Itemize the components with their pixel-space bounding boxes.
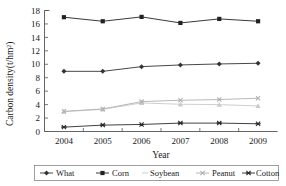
series-line	[64, 103, 258, 112]
series-what	[61, 61, 260, 74]
series-soybean	[61, 100, 260, 113]
data-point	[178, 21, 182, 25]
data-point	[217, 121, 222, 125]
x-tick-label: 2005	[94, 136, 113, 146]
y-tick-label: 0	[36, 127, 41, 137]
legend-label: Soybean	[150, 168, 180, 178]
y-axis-title: Carbon density(t/hm²)	[5, 42, 16, 126]
x-axis-title: Year	[152, 150, 170, 160]
y-tick-label: 8	[36, 73, 41, 83]
y-tick-label: 10	[31, 59, 41, 69]
series-layer	[61, 15, 261, 129]
legend-marker-icon	[44, 171, 49, 176]
data-point	[256, 19, 260, 23]
data-point	[139, 64, 144, 69]
data-point	[62, 15, 66, 19]
legend-item-what[interactable]: What	[40, 168, 75, 178]
x-axis-tick-labels: 200420052006200720082009	[55, 136, 268, 146]
legend-marker-icon	[100, 171, 104, 175]
data-point	[178, 62, 183, 67]
data-point	[256, 61, 261, 66]
legend-item-soybean[interactable]: Soybean	[142, 168, 180, 178]
data-point	[100, 123, 105, 127]
y-axis-title-group: Carbon density(t/hm²)	[5, 42, 16, 126]
y-tick-label: 12	[31, 46, 40, 56]
series-line	[64, 17, 258, 23]
line-chart: Carbon density(t/hm²) 024681012141618 20…	[0, 0, 286, 186]
y-axis-tick-labels: 024681012141618	[31, 6, 41, 137]
legend-label: Peanut	[212, 168, 236, 178]
chart-container: Carbon density(t/hm²) 024681012141618 20…	[0, 0, 286, 186]
data-point	[100, 69, 105, 74]
series-line	[64, 123, 258, 127]
legend-marker-icon	[246, 171, 251, 175]
legend-item-cotton[interactable]: Cotton	[242, 168, 280, 178]
data-point	[61, 69, 66, 74]
x-tick-label: 2008	[210, 136, 229, 146]
legend: WhatCornSoybeanPeanutCotton	[35, 166, 280, 181]
data-point	[61, 125, 66, 129]
y-tick-label: 18	[31, 6, 41, 16]
legend-item-peanut[interactable]: Peanut	[196, 168, 236, 178]
y-tick-label: 14	[31, 33, 41, 43]
y-tick-label: 6	[36, 86, 41, 96]
data-point	[139, 15, 143, 19]
x-tick-label: 2004	[55, 136, 74, 146]
data-point	[217, 61, 222, 66]
series-line	[64, 63, 258, 71]
y-tick-label: 16	[31, 19, 41, 29]
legend-item-corn[interactable]: Corn	[96, 168, 130, 178]
series-cotton	[61, 121, 261, 129]
x-tick-label: 2006	[133, 136, 152, 146]
data-point	[217, 17, 221, 21]
legend-label: Corn	[112, 168, 130, 178]
y-tick-label: 4	[36, 100, 41, 110]
data-point	[178, 121, 183, 125]
x-axis-tick-marks	[83, 128, 238, 132]
data-point	[255, 122, 260, 126]
legend-label: Cotton	[256, 168, 280, 178]
x-tick-label: 2009	[249, 136, 268, 146]
x-tick-label: 2007	[171, 136, 190, 146]
data-point	[101, 19, 105, 23]
y-tick-label: 2	[36, 113, 41, 123]
y-axis-tick-marks	[45, 11, 49, 132]
data-point	[139, 122, 144, 126]
series-corn	[62, 15, 260, 25]
legend-label: What	[56, 168, 75, 178]
